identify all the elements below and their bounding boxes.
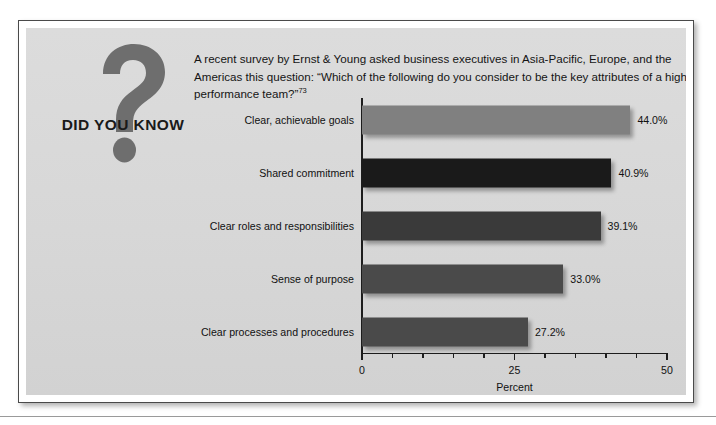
x-tick-10 [422, 353, 423, 358]
callout-panel: DID YOU KNOW A recent survey by Ernst & … [26, 28, 686, 395]
x-tick-35 [575, 353, 576, 358]
x-tick-20 [483, 353, 484, 358]
category-label-1: Shared commitment [94, 167, 354, 179]
x-tick-label-50: 50 [661, 364, 673, 376]
category-label-3: Sense of purpose [94, 273, 354, 285]
category-label-4: Clear processes and procedures [94, 326, 354, 338]
bar-value-label-3: 33.0% [570, 273, 600, 285]
category-label-2: Clear roles and responsibilities [94, 220, 354, 232]
x-tick-0 [361, 353, 362, 360]
did-you-know-callout-box: DID YOU KNOW A recent survey by Ernst & … [18, 20, 694, 403]
x-tick-15 [453, 353, 454, 358]
survey-bar-chart: 02550 Clear, achievable goalsShared comm… [26, 28, 686, 395]
category-label-0: Clear, achievable goals [94, 114, 354, 126]
x-tick-label-25: 25 [509, 364, 521, 376]
bar-value-label-2: 39.1% [608, 220, 638, 232]
bar-value-label-0: 44.0% [637, 114, 667, 126]
bar-4 [362, 318, 528, 347]
x-axis-title: Percent [496, 381, 533, 393]
bar-0 [362, 106, 630, 135]
x-tick-45 [636, 353, 637, 358]
bar-2 [362, 212, 601, 241]
bar-value-label-1: 40.9% [618, 167, 648, 179]
x-tick-5 [392, 353, 393, 358]
bar-value-label-4: 27.2% [535, 326, 565, 338]
x-tick-30 [544, 353, 545, 358]
x-tick-40 [605, 353, 606, 358]
bar-3 [362, 265, 563, 294]
page-footer-rule [0, 416, 716, 417]
x-tick-50 [666, 353, 667, 360]
x-tick-25 [514, 353, 515, 360]
x-tick-label-0: 0 [359, 364, 365, 376]
bar-1 [362, 159, 611, 188]
